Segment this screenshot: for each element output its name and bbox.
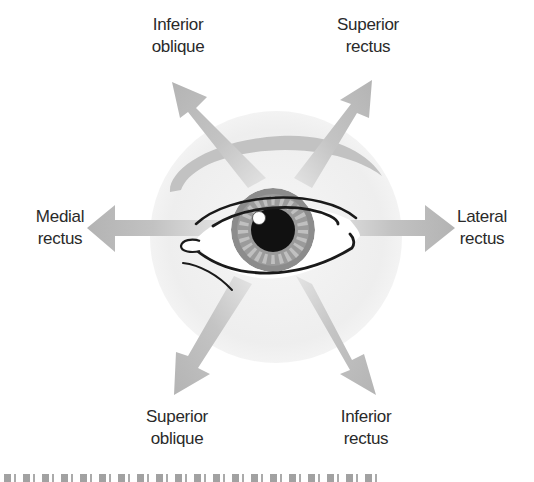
label-inferior-rectus-line2: rectus bbox=[341, 428, 392, 450]
label-superior-rectus-line2: rectus bbox=[337, 36, 399, 58]
label-inferior-oblique-line1: Inferior bbox=[152, 14, 205, 36]
label-superior-oblique-line1: Superior bbox=[146, 406, 208, 428]
caption-cropped bbox=[0, 474, 400, 482]
label-inferior-oblique-line2: oblique bbox=[152, 36, 205, 58]
label-inferior-oblique: Inferior oblique bbox=[152, 14, 205, 58]
tear-duct bbox=[181, 240, 200, 252]
label-superior-oblique-line2: oblique bbox=[146, 428, 208, 450]
label-medial-rectus-line1: Medial bbox=[36, 206, 84, 228]
label-medial-rectus-line2: rectus bbox=[36, 228, 84, 250]
label-lateral-rectus-line2: rectus bbox=[457, 228, 507, 250]
label-superior-rectus-line1: Superior bbox=[337, 14, 399, 36]
label-medial-rectus: Medial rectus bbox=[36, 206, 84, 250]
label-lateral-rectus: Lateral rectus bbox=[457, 206, 507, 250]
label-inferior-rectus-line1: Inferior bbox=[341, 406, 392, 428]
label-superior-rectus: Superior rectus bbox=[337, 14, 399, 58]
label-superior-oblique: Superior oblique bbox=[146, 406, 208, 450]
pupil-highlight bbox=[253, 212, 266, 225]
label-lateral-rectus-line1: Lateral bbox=[457, 206, 507, 228]
label-inferior-rectus: Inferior rectus bbox=[341, 406, 392, 450]
